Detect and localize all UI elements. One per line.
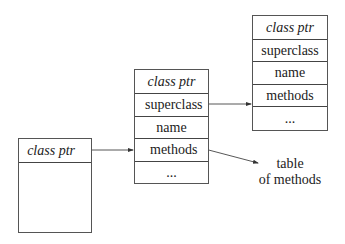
superclass-class-ptr-cell: class ptr (253, 16, 327, 40)
superclass-ellipsis-cell: ... (253, 107, 327, 130)
instance-object: class ptr (18, 138, 92, 233)
instance-body-cell (19, 163, 91, 232)
class-methods-cell: methods (135, 139, 208, 162)
cell-label: class ptr (27, 143, 75, 159)
superclass-name-cell: name (253, 62, 327, 85)
class-class-ptr-cell: class ptr (135, 70, 208, 94)
superclass-object: class ptr superclass name methods ... (252, 15, 328, 131)
class-object: class ptr superclass name methods ... (134, 69, 209, 184)
class-ellipsis-cell: ... (135, 162, 208, 183)
superclass-superclass-cell: superclass (253, 40, 327, 62)
instance-class-ptr-cell: class ptr (19, 139, 91, 163)
table-of-methods-label: table of methods (255, 156, 325, 188)
superclass-methods-cell: methods (253, 85, 327, 107)
class-name-cell: name (135, 117, 208, 139)
class-superclass-cell: superclass (135, 94, 208, 117)
